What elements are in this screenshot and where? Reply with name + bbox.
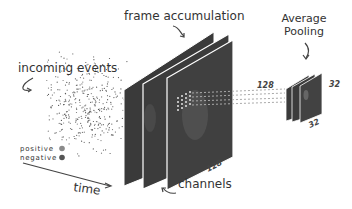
legend-positive-dot (59, 146, 65, 152)
dim-frame-height: 128 (257, 81, 274, 90)
legend-negative-dot (59, 155, 65, 161)
label-channels: channels (178, 177, 232, 191)
label-frame-accumulation: frame accumulation (124, 9, 245, 23)
time-arrow-icon (23, 163, 110, 186)
label-pooling: Pooling (284, 25, 324, 38)
frame-blob-2 (144, 104, 156, 132)
legend-negative-label: negative (20, 154, 57, 162)
label-average: Average (281, 12, 326, 25)
pooled-blob (304, 90, 309, 100)
legend-positive-label: positive (20, 145, 54, 153)
pooled-stack (286, 73, 322, 123)
frame-accumulation-arrow-icon (173, 26, 184, 36)
diagram-canvas: incoming events frame accumulation Avera… (0, 0, 352, 209)
dim-pooled-height: 32 (329, 80, 341, 89)
label-incoming-events: incoming events (18, 61, 117, 75)
